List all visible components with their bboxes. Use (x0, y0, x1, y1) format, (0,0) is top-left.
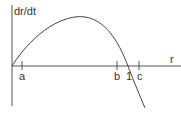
tick-label-1: 1 (126, 70, 132, 82)
x-axis-label: r (170, 53, 174, 65)
tick-label-b: b (114, 70, 120, 82)
tick-label-c: c (137, 70, 143, 82)
tick-label-a: a (19, 70, 26, 82)
y-axis-label: dr/dt (14, 5, 36, 17)
phase-diagram: dr/dt r a b 1 c (0, 0, 181, 115)
growth-curve (12, 17, 145, 108)
